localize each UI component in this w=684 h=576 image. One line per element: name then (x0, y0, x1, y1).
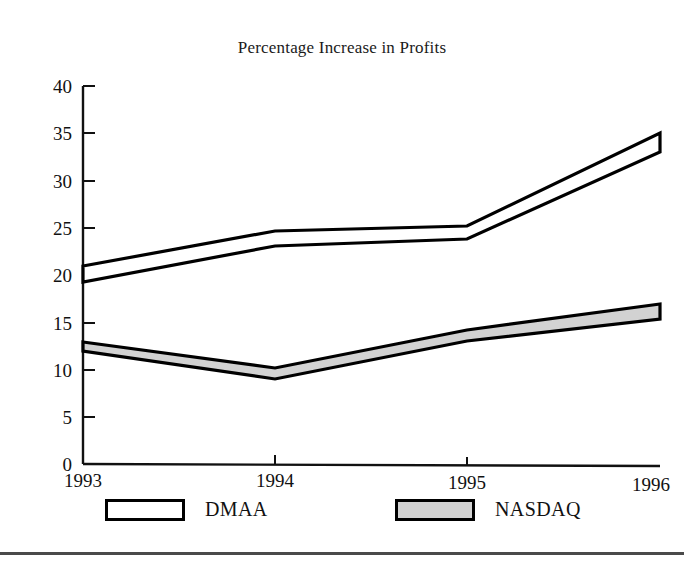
chart-figure: Percentage Increase in Profits 40 (0, 0, 684, 576)
y-tick-label-40: 40 (26, 76, 72, 98)
legend-label-dmaa: DMAA (205, 498, 268, 521)
footer-rule (0, 552, 684, 555)
series-band-dmaa (83, 133, 660, 282)
hollow-rect-swatch-icon (105, 499, 185, 521)
x-axis-line (83, 464, 660, 466)
legend-label-nasdaq: NASDAQ (495, 498, 581, 521)
legend-entry-nasdaq: NASDAQ (395, 498, 581, 521)
y-tick-label-20: 20 (26, 265, 72, 287)
x-tick-label-1993: 1993 (36, 470, 130, 492)
y-tick-label-35: 35 (26, 123, 72, 145)
gray-rect-swatch-icon (395, 499, 475, 521)
legend-entry-dmaa: DMAA (105, 498, 268, 521)
y-tick-label-15: 15 (26, 313, 72, 335)
series-band-nasdaq (83, 304, 660, 379)
y-tick-label-30: 30 (26, 171, 72, 193)
x-tick-label-1995: 1995 (420, 472, 514, 494)
y-tick-label-10: 10 (26, 360, 72, 382)
x-tick-label-1994: 1994 (228, 470, 322, 492)
y-tick-label-25: 25 (26, 218, 72, 240)
y-tick-label-5: 5 (26, 407, 72, 429)
chart-legend: DMAA NASDAQ (0, 496, 684, 530)
x-tick-label-1996: 1996 (604, 474, 684, 496)
